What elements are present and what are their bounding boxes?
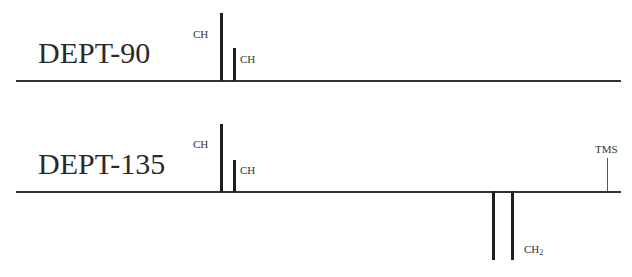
dept-90-ch-peak-2 <box>233 48 236 81</box>
dept-90-ch-label-2: CH <box>240 54 255 65</box>
dept-90-ch-peak-1 <box>220 13 223 81</box>
dept-90-baseline <box>16 80 621 82</box>
dept-90-title: DEPT-90 <box>38 38 150 68</box>
dept-135-title: DEPT-135 <box>38 149 165 179</box>
dept-135-ch-label-1: CH <box>193 139 208 150</box>
dept-135-ch-peak-1 <box>220 124 223 192</box>
tms-label: TMS <box>595 144 618 155</box>
dept-90-ch-label-1: CH <box>193 29 208 40</box>
tms-reference-peak <box>607 158 608 191</box>
dept-135-ch2-label: CH2 <box>524 244 543 255</box>
dept-135-ch2-peak-2 <box>511 191 514 260</box>
dept-135-ch-peak-2 <box>233 160 236 192</box>
ch2-label-subscript: 2 <box>539 248 543 257</box>
ch2-label-main: CH <box>524 243 539 255</box>
dept-135-ch-label-2: CH <box>240 165 255 176</box>
dept-135-baseline <box>16 191 621 193</box>
dept-135-ch2-peak-1 <box>492 191 495 260</box>
